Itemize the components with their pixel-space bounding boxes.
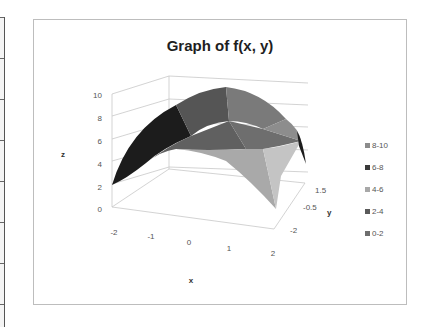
svg-text:-1: -1: [147, 232, 155, 241]
x-axis-label: x: [189, 276, 194, 285]
svg-text:-2: -2: [290, 226, 298, 235]
legend-swatch-icon: [365, 187, 370, 192]
x-axis-ticks: -2 -1 0 1 2: [110, 228, 275, 258]
svg-text:2: 2: [98, 183, 103, 192]
svg-text:0: 0: [187, 238, 192, 247]
svg-text:2: 2: [271, 249, 276, 258]
svg-text:8: 8: [98, 114, 103, 123]
svg-text:-2: -2: [110, 228, 118, 237]
y-axis-ticks: -2 -0.5 1.5: [290, 186, 327, 235]
legend-swatch-icon: [365, 143, 370, 148]
legend: 8-106-84-62-40-2: [365, 134, 388, 244]
spreadsheet-row-divider: [0, 17, 4, 18]
spreadsheet-row-divider: [0, 181, 4, 182]
chart-area[interactable]: Graph of f(x, y): [33, 19, 407, 305]
svg-text:1.5: 1.5: [315, 186, 327, 195]
surface-plot: 10 8 6 4 2 0 z -2 -1 0 1 2 x -2 -0.5 1.5…: [34, 20, 408, 306]
svg-text:1: 1: [227, 244, 232, 253]
legend-swatch-icon: [365, 165, 370, 170]
legend-label: 0-2: [372, 229, 384, 238]
legend-label: 6-8: [372, 163, 384, 172]
spreadsheet-row-divider: [0, 140, 4, 141]
legend-item: 0-2: [365, 222, 388, 244]
legend-label: 4-6: [372, 185, 384, 194]
spreadsheet-row-divider: [0, 304, 4, 305]
legend-item: 2-4: [365, 200, 388, 222]
legend-swatch-icon: [365, 209, 370, 214]
legend-item: 4-6: [365, 178, 388, 200]
svg-text:10: 10: [93, 91, 102, 100]
legend-swatch-icon: [365, 231, 370, 236]
y-axis-label: y: [327, 208, 332, 217]
spreadsheet-row-divider: [0, 99, 4, 100]
svg-text:4: 4: [98, 160, 103, 169]
legend-item: 8-10: [365, 134, 388, 156]
spreadsheet-row-divider: [0, 222, 4, 223]
spreadsheet-row-divider: [0, 58, 4, 59]
legend-item: 6-8: [365, 156, 388, 178]
z-axis-label: z: [61, 150, 65, 159]
z-axis-ticks: 10 8 6 4 2 0: [93, 91, 102, 214]
surface: [112, 87, 306, 209]
svg-text:-0.5: -0.5: [303, 203, 317, 212]
spreadsheet-edge: [0, 17, 5, 327]
svg-text:6: 6: [98, 137, 103, 146]
spreadsheet-row-divider: [0, 263, 4, 264]
legend-label: 2-4: [372, 207, 384, 216]
legend-label: 8-10: [372, 141, 388, 150]
svg-text:0: 0: [98, 205, 103, 214]
